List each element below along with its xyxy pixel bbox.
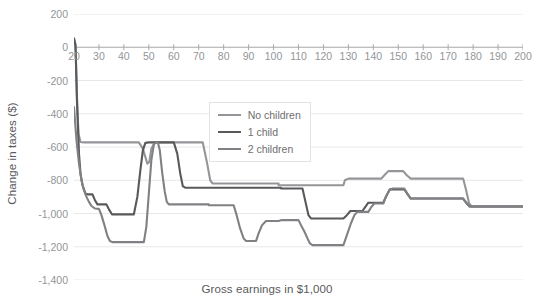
y-tick-label: -800 [47,174,68,186]
legend-label: 2 children [248,143,294,155]
y-axis-title: Change in taxes ($) [0,0,24,307]
legend-item[interactable]: 1 child [218,126,301,138]
legend-item[interactable]: No children [218,109,301,121]
y-tick-label: 200 [50,8,68,20]
x-tick-label: 140 [365,50,383,62]
x-tick-label: 190 [489,50,507,62]
x-tick-label: 100 [265,50,283,62]
chart-container: Change in taxes ($) 2000-200-400-600-800… [0,0,534,307]
x-tick-label: 40 [118,50,130,62]
x-tick-label: 70 [193,50,205,62]
chart-legend: No children1 child2 children [209,102,311,162]
x-tick-label: 200 [514,50,532,62]
y-tick-label: -1,000 [38,208,68,220]
x-tick-label: 160 [414,50,432,62]
x-tick-label: 110 [290,50,307,62]
x-tick-label: 180 [464,50,482,62]
legend-label: 1 child [248,126,278,138]
x-tick-label: 80 [218,50,230,62]
legend-swatch-icon [218,131,241,133]
y-tick-label: -200 [47,75,68,87]
legend-swatch-icon [218,114,241,116]
y-tick-label: -400 [47,108,68,120]
legend-label: No children [248,109,301,121]
legend-swatch-icon [218,148,241,150]
x-tick-label: 130 [340,50,358,62]
x-tick-label: 120 [315,50,333,62]
x-tick-label: 90 [243,50,255,62]
x-tick-label: 150 [390,50,408,62]
x-axis-title: Gross earnings in $1,000 [0,283,534,295]
legend-item[interactable]: 2 children [218,143,301,155]
y-tick-label: 0 [62,41,68,53]
x-tick-label: 170 [439,50,457,62]
x-tick-label: 50 [143,50,155,62]
x-tick-label: 60 [168,50,180,62]
y-tick-label: -600 [47,141,68,153]
x-tick-label: 30 [93,50,105,62]
y-tick-label: -1,200 [38,241,68,253]
x-tick-label: 20 [68,50,80,62]
